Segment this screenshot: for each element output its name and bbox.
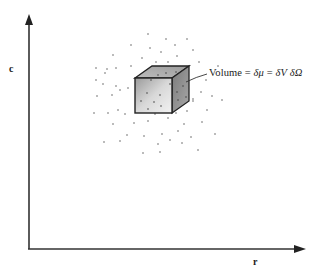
- axes: [25, 14, 306, 253]
- point: [161, 133, 163, 135]
- point: [181, 142, 183, 144]
- point: [157, 74, 159, 76]
- point: [221, 99, 223, 101]
- point: [111, 94, 113, 96]
- point: [192, 100, 194, 102]
- point: [119, 140, 121, 142]
- point: [214, 133, 216, 135]
- point: [165, 38, 167, 40]
- point: [176, 55, 178, 57]
- point: [185, 96, 187, 98]
- point: [183, 123, 185, 125]
- point: [96, 95, 98, 97]
- point: [206, 109, 208, 111]
- point: [147, 120, 149, 122]
- point: [143, 135, 145, 137]
- point: [186, 110, 188, 112]
- point: [147, 33, 149, 35]
- point: [146, 92, 148, 94]
- point: [197, 149, 199, 151]
- point: [160, 51, 162, 53]
- point: [115, 85, 117, 87]
- delta-omega-term: δΩ: [290, 67, 303, 78]
- point: [167, 117, 169, 119]
- point: [190, 136, 192, 138]
- point: [175, 112, 177, 114]
- point: [112, 54, 114, 56]
- point: [142, 152, 144, 154]
- point: [211, 95, 213, 97]
- point: [124, 113, 126, 115]
- point: [177, 130, 179, 132]
- point: [119, 89, 121, 91]
- horizontal-axis-label: r: [253, 256, 257, 267]
- point: [95, 67, 97, 69]
- point: [186, 38, 188, 40]
- delta-mu-term: δμ: [254, 67, 264, 78]
- volume-annotation: Volume = δμ = δV δΩ: [209, 67, 302, 78]
- point: [167, 61, 169, 63]
- point: [127, 87, 129, 89]
- point: [140, 100, 142, 102]
- point: [141, 57, 143, 59]
- point: [150, 79, 152, 81]
- point: [165, 72, 167, 74]
- point: [115, 67, 117, 69]
- point: [175, 71, 177, 73]
- equals-sign: =: [245, 67, 251, 78]
- point: [192, 98, 194, 100]
- point: [153, 101, 155, 103]
- point: [106, 68, 108, 70]
- point: [107, 112, 109, 114]
- point: [192, 49, 194, 51]
- point: [198, 61, 200, 63]
- equals-sign: =: [267, 67, 273, 78]
- point: [117, 109, 119, 111]
- point: [147, 108, 149, 110]
- point: [182, 85, 184, 87]
- point: [176, 91, 178, 93]
- point: [177, 99, 179, 101]
- point: [159, 94, 161, 96]
- point: [174, 44, 176, 46]
- horizontal-axis-arrowhead-icon: [294, 245, 306, 253]
- phase-space-diagram: [0, 0, 321, 269]
- point: [160, 105, 162, 107]
- volume-element-cube: [135, 66, 189, 113]
- volume-word: Volume: [209, 67, 242, 78]
- point: [130, 65, 132, 67]
- vertical-axis-arrowhead-icon: [25, 14, 33, 25]
- delta-v-term: δV: [275, 67, 287, 78]
- point: [169, 83, 171, 85]
- point: [93, 112, 95, 114]
- point: [95, 79, 97, 81]
- vertical-axis-label: c: [9, 63, 13, 74]
- point: [104, 72, 106, 74]
- point: [133, 122, 135, 124]
- point: [201, 121, 203, 123]
- point: [112, 123, 114, 125]
- point: [149, 47, 151, 49]
- point: [157, 143, 159, 145]
- point: [205, 79, 207, 81]
- point: [169, 139, 171, 141]
- cube-front-face: [135, 78, 172, 113]
- point: [155, 61, 157, 63]
- point: [159, 151, 161, 153]
- point: [103, 141, 105, 143]
- point: [130, 44, 132, 46]
- point: [102, 83, 104, 85]
- point: [126, 134, 128, 136]
- point: [200, 91, 202, 93]
